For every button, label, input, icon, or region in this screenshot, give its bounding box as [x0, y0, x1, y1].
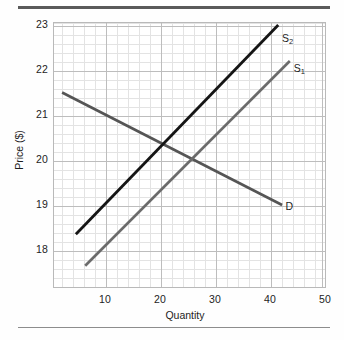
series-label-subscript: 2: [289, 37, 293, 46]
y-tick-label: 21: [22, 108, 48, 120]
x-axis-title: Quantity: [120, 309, 250, 321]
x-tick-label: 50: [310, 293, 340, 305]
series-label-d: D: [285, 200, 293, 212]
series-label-base: S: [294, 62, 301, 74]
bottom-divider-rule: [18, 327, 330, 328]
y-axis-title: Price ($): [13, 115, 25, 185]
top-divider-rule: [18, 6, 330, 9]
y-tick-label: 23: [22, 18, 48, 30]
series-label-s1: S1: [294, 62, 305, 74]
x-tick-label: 20: [145, 293, 175, 305]
series-label-subscript: 1: [301, 67, 305, 76]
x-tick-label: 40: [255, 293, 285, 305]
y-tick-label: 20: [22, 153, 48, 165]
chart-figure: 181920212223 1020304050 DS1S2 Price ($) …: [0, 0, 344, 340]
y-tick-label: 22: [22, 63, 48, 75]
y-tick-label: 19: [22, 198, 48, 210]
series-label-s2: S2: [282, 32, 293, 44]
y-tick-label: 18: [22, 243, 48, 255]
x-tick-label: 10: [90, 293, 120, 305]
plot-area: [53, 22, 326, 288]
x-tick-label: 30: [200, 293, 230, 305]
